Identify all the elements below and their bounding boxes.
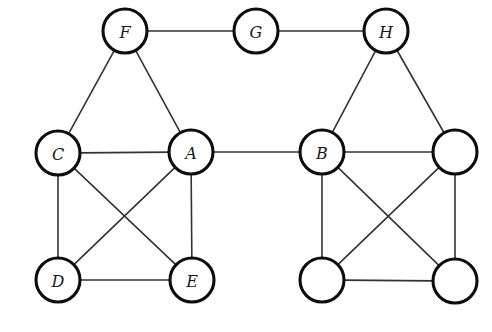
graph-edge	[332, 50, 376, 134]
graph-edge	[68, 49, 115, 134]
node-circle	[433, 130, 477, 174]
graph-edge	[396, 49, 444, 134]
graph-node-unlabeled[interactable]	[433, 130, 477, 174]
graph-node-f[interactable]: F	[103, 9, 147, 53]
graph-edge	[343, 280, 434, 281]
node-label: H	[378, 23, 394, 42]
node-label: G	[250, 23, 263, 42]
node-label: C	[52, 145, 64, 164]
node-layer: FGHCABDE	[36, 9, 477, 303]
graph-node-c[interactable]: C	[36, 131, 80, 175]
graph-edge	[79, 152, 170, 153]
edge-layer	[58, 31, 455, 281]
node-circle	[433, 259, 477, 303]
graph-edge	[135, 49, 181, 133]
graph-node-e[interactable]: E	[170, 258, 214, 302]
graph-node-d[interactable]: D	[36, 258, 80, 302]
node-label: F	[118, 23, 131, 42]
node-label: A	[183, 144, 197, 163]
node-label: D	[51, 272, 65, 291]
node-circle	[300, 258, 344, 302]
node-label: E	[185, 272, 198, 291]
node-label: B	[315, 144, 328, 163]
graph-figure: FGHCABDE	[0, 0, 492, 332]
graph-node-g[interactable]: G	[234, 9, 278, 53]
graph-node-unlabeled[interactable]	[300, 258, 344, 302]
graph-edge	[191, 173, 192, 259]
graph-node-a[interactable]: A	[169, 130, 213, 174]
graph-node-unlabeled[interactable]	[433, 259, 477, 303]
graph-node-h[interactable]: H	[364, 9, 408, 53]
graph-node-b[interactable]: B	[300, 130, 344, 174]
graph-canvas: FGHCABDE	[0, 0, 492, 332]
